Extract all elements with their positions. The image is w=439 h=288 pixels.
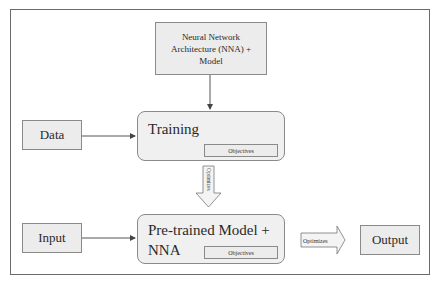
training-objectives: Objectives xyxy=(204,144,278,157)
block-arrow-down-optimizes: Optimizes xyxy=(196,166,221,207)
input-node: Input xyxy=(22,223,82,253)
training-objectives-label: Objectives xyxy=(228,148,254,154)
pretrained-objectives-label: Objectives xyxy=(228,250,254,256)
pretrained-line1: Pre-trained Model + xyxy=(148,222,270,239)
input-label: Input xyxy=(38,230,65,246)
block-arrow-right-optimizes: Optimizes xyxy=(301,226,345,254)
nna-line1: Neural Network xyxy=(182,31,240,43)
pretrained-objectives: Objectives xyxy=(204,246,278,259)
output-label: Output xyxy=(372,232,408,248)
down-arrow-label: Optimizes xyxy=(206,168,212,191)
nna-line2: Architecture (NNA) + xyxy=(171,43,251,55)
pretrained-line2: NNA xyxy=(148,242,181,259)
pretrained-node: Pre-trained Model + NNA Objectives xyxy=(137,214,285,264)
training-node: Training Objectives xyxy=(137,111,285,161)
nna-line3: Model xyxy=(199,55,223,67)
output-node: Output xyxy=(360,225,420,255)
right-arrow-label: Optimizes xyxy=(303,238,328,244)
nna-model-node: Neural Network Architecture (NNA) + Mode… xyxy=(155,22,267,75)
training-label: Training xyxy=(148,121,199,138)
data-node: Data xyxy=(22,120,82,150)
data-label: Data xyxy=(40,127,65,143)
